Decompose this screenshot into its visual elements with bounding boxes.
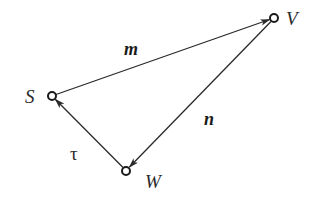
- edge-tau-w-to-s: [56, 100, 124, 168]
- edge-m-s-to-v: [56, 20, 270, 95]
- node-label-w: W: [145, 171, 163, 192]
- triangle-graph: S V W m n τ: [0, 0, 325, 200]
- node-s: [48, 92, 56, 100]
- edge-label-n: n: [204, 109, 214, 129]
- node-label-s: S: [25, 86, 35, 107]
- diagram-canvas: S V W m n τ: [0, 0, 325, 200]
- node-v: [270, 14, 278, 22]
- edge-label-m: m: [124, 39, 138, 59]
- node-label-v: V: [286, 8, 300, 29]
- node-w: [122, 167, 130, 175]
- edge-label-tau: τ: [70, 143, 78, 164]
